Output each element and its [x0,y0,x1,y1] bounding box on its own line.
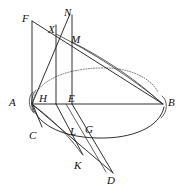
point-label-K: K [74,160,81,171]
point-label-N: N [64,7,71,18]
point-label-X: X [48,24,55,35]
point-label-D: D [107,175,115,186]
figure-canvas [0,0,186,193]
point-label-B: B [168,97,175,108]
point-label-M: M [71,34,80,45]
point-label-E: E [68,93,75,104]
point-label-G: G [85,124,93,135]
point-label-C: C [29,130,36,141]
point-label-H: H [39,93,47,104]
geometry-figure: F N X M A H E B C L G K D [0,0,186,193]
point-label-A: A [9,97,16,108]
point-label-L: L [70,126,76,137]
point-label-F: F [22,13,29,24]
